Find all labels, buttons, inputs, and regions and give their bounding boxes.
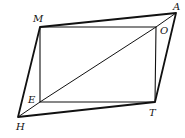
geometry-diagram: M A O E T H [0, 0, 185, 138]
label-t: T [149, 107, 157, 118]
label-m: M [32, 13, 44, 24]
label-a: A [172, 1, 180, 12]
label-o: O [160, 25, 168, 36]
segment-eo [40, 27, 156, 102]
label-h: H [15, 121, 25, 132]
label-e: E [27, 94, 36, 105]
